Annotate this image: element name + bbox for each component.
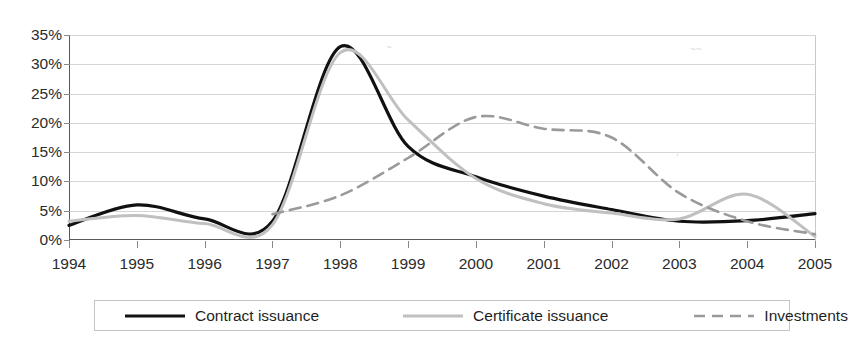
x-tick-mark — [544, 241, 545, 248]
chart-legend: Contract issuanceCertificate issuanceInv… — [94, 300, 790, 331]
legend-label: Investments — [764, 307, 848, 325]
x-tick-mark — [137, 241, 138, 248]
legend-item-contract-issuance[interactable]: Contract issuance — [125, 301, 319, 330]
series-line-investments — [272, 116, 815, 234]
legend-item-certificate-issuance[interactable]: Certificate issuance — [403, 301, 608, 330]
legend-label: Contract issuance — [195, 307, 319, 325]
x-tick-mark — [69, 241, 70, 248]
series-line-certificate-issuance — [69, 50, 815, 238]
legend-label: Certificate issuance — [473, 307, 608, 325]
legend-item-investments[interactable]: Investments — [694, 301, 848, 330]
series-line-contract-issuance — [69, 46, 815, 234]
x-tick-mark — [747, 241, 748, 248]
x-tick-mark — [205, 241, 206, 248]
x-tick-mark — [476, 241, 477, 248]
dashed-gray-line-icon — [694, 310, 754, 322]
x-tick-mark — [340, 241, 341, 248]
solid-black-line-icon — [125, 310, 185, 322]
x-tick-mark — [408, 241, 409, 248]
x-tick-mark — [679, 241, 680, 248]
x-tick-mark — [815, 241, 816, 248]
x-tick-mark — [612, 241, 613, 248]
solid-gray-line-icon — [403, 310, 463, 322]
x-tick-mark — [272, 241, 273, 248]
